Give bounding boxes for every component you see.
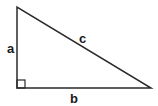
side-a-label: a bbox=[7, 41, 15, 56]
triangle bbox=[17, 7, 151, 88]
side-b-label: b bbox=[70, 91, 78, 106]
right-triangle-diagram: a c b bbox=[0, 0, 158, 106]
right-angle-marker bbox=[17, 80, 25, 88]
side-c-label: c bbox=[79, 31, 86, 46]
